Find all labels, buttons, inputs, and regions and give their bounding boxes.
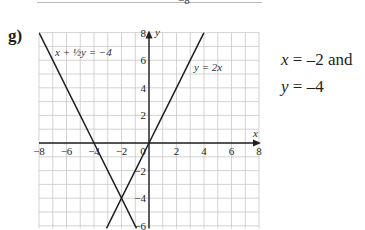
answer-text: x = –2 and y = –4	[281, 46, 352, 100]
x-axis-label: x	[252, 127, 258, 139]
y-tick-label: 2	[141, 109, 147, 121]
x-tick-label: −6	[61, 145, 73, 157]
answer-line-y: y = –4	[281, 73, 352, 100]
y-tick-label: 6	[141, 54, 147, 66]
line-y-eq-2x	[106, 33, 204, 229]
x-tick-label: −2	[116, 145, 128, 157]
series-label-line2: y = 2x	[193, 61, 222, 73]
y-tick-label: 8	[141, 27, 147, 39]
series-label-line1: x + ½y = −4	[54, 46, 112, 58]
y-tick-label: 4	[141, 82, 147, 94]
x-tick-label: 6	[229, 145, 235, 157]
x-tick-label: 8	[256, 145, 262, 157]
y-axis-arrow-icon	[146, 31, 153, 39]
answer-line-x: x = –2 and	[281, 46, 352, 73]
line-graph: xy−8−6−4−202468−6−4−22468x + ½y = −4y = …	[0, 0, 365, 230]
y-axis-label: y	[154, 26, 160, 38]
x-tick-label: 4	[201, 145, 207, 157]
x-tick-label: 2	[174, 145, 180, 157]
x-tick-label: −8	[33, 145, 45, 157]
y-tick-label: −4	[134, 192, 146, 204]
line-x-plus-half-y-eq-neg4	[39, 33, 137, 229]
